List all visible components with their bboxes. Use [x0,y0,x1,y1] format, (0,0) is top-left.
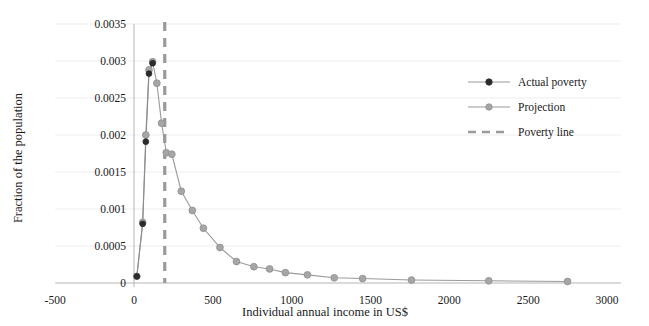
data-point [359,275,366,282]
legend-label: Actual poverty [518,76,587,89]
y-axis-label: Fraction of the population [11,92,25,223]
data-point [564,278,571,285]
data-point [217,244,224,251]
data-point [178,188,185,195]
data-point [150,60,156,66]
data-point [233,258,240,265]
data-point [168,151,175,158]
data-point [143,139,149,145]
legend-swatch-marker [486,79,492,85]
chart-canvas: 00.00050.0010.00150.0020.00250.0030.0035… [0,0,649,326]
y-tick-label: 0.001 [100,203,126,215]
y-axis-tick-labels: 00.00050.0010.00150.0020.00250.0030.0035 [94,18,126,289]
x-tick-label: 0 [131,294,137,306]
x-tick-label: 3000 [596,294,619,306]
data-point [189,207,196,214]
y-tick-label: 0.002 [100,129,126,141]
legend-label: Projection [518,101,566,114]
series-line [137,63,153,276]
data-point [266,266,273,273]
data-point [408,277,415,284]
data-point [134,273,140,279]
legend-label: Poverty line [518,126,574,139]
income-distribution-chart: 00.00050.0010.00150.0020.00250.0030.0035… [0,0,649,326]
y-tick-label: 0.0025 [94,92,126,104]
x-tick-label: 2000 [438,294,461,306]
data-point [142,132,149,139]
data-point [146,71,152,77]
data-point [140,221,146,227]
data-point [331,274,338,281]
y-tick-label: 0.003 [100,55,126,67]
data-point [153,80,160,87]
y-tick-label: 0.0005 [94,240,126,252]
y-tick-label: 0.0035 [94,18,126,30]
y-tick-label: 0.0015 [94,166,126,178]
legend-swatch-marker [486,104,492,110]
data-point [485,277,492,284]
data-point [250,263,257,270]
x-tick-label: 2500 [517,294,540,306]
x-axis-label: Individual annual income in US$ [242,305,408,319]
x-tick-label: 500 [204,294,222,306]
x-tick-label: -500 [45,294,66,306]
data-point [282,269,289,276]
y-tick-label: 0 [120,277,126,289]
data-point [200,225,207,232]
data-point [158,120,165,127]
data-point [304,271,311,278]
chart-legend: Actual povertyProjectionPoverty line [468,76,587,139]
